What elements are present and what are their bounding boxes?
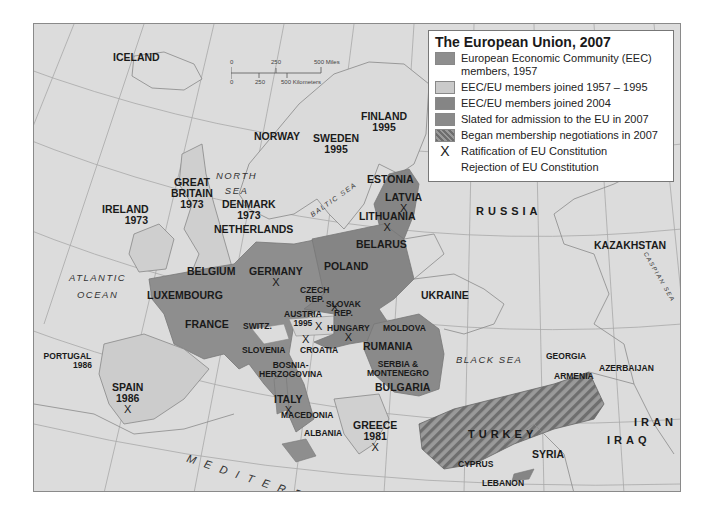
label-portugal: PORTUGAL1986 (43, 352, 92, 370)
label-sweden: SWEDEN1995 (313, 133, 359, 155)
scale-km-250: 250 (255, 79, 265, 85)
label-atlantic-ocean: ATLANTICOCEAN (69, 272, 126, 300)
legend: The European Union, 2007 European Econom… (428, 30, 674, 182)
legend-title: The European Union, 2007 (435, 34, 667, 50)
label-cyprus: CYPRUS (458, 460, 493, 469)
label-north-sea-line2: SEA (216, 185, 257, 196)
label-germany: GERMANYX (249, 266, 303, 288)
x-mark-icon: X (435, 145, 455, 158)
label-serbia-line2: MONTENEGRO (367, 369, 429, 378)
label-croatia: CROATIA (300, 346, 338, 355)
swatch-hatched-negotiations (435, 129, 455, 142)
label-kazakhstan: KAZAKHSTAN (594, 240, 666, 251)
label-black-sea: BLACK SEA (456, 354, 522, 365)
label-ireland-year: 1973 (124, 215, 149, 226)
label-russia: RUSSIA (476, 206, 542, 217)
label-armenia: ARMENIA (554, 372, 594, 381)
label-atlantic-line1: ATLANTIC (69, 272, 126, 283)
label-czech-line2: REP. (300, 295, 329, 304)
ratification-x-croatia-area: X (302, 333, 309, 345)
label-finland-year: 1995 (361, 122, 407, 133)
label-finland: FINLAND1995 (361, 111, 407, 133)
label-serbia-montenegro: SERBIA &MONTENEGRO (367, 360, 429, 378)
label-norway: NORWAY (254, 131, 300, 142)
legend-label-negotiations-2007: Began membership negotiations in 2007 (461, 129, 658, 142)
label-sweden-year: 1995 (313, 144, 359, 155)
label-belgium: BELGIUM (187, 266, 235, 277)
swatch-eec-1957 (435, 52, 455, 65)
ireland-shape (129, 224, 174, 272)
legend-item-negotiations-2007: Began membership negotiations in 2007 (435, 129, 667, 142)
legend-item-joined-2004: EEC/EU members joined 2004 (435, 97, 667, 110)
ratification-x-spain: X (112, 404, 143, 415)
swatch-joined-2004 (435, 97, 455, 110)
label-iraq: IRAQ (607, 435, 651, 446)
label-lithuania: LITHUANIAX (359, 211, 416, 233)
legend-item-eec-1957: European Economic Community (EEC) member… (435, 52, 667, 78)
scale-bar: 0 250 500 Miles 0 250 500 Kilometers (231, 59, 361, 89)
swatch-slated-2007 (435, 113, 455, 126)
legend-item-rejection: Rejection of EU Constitution (435, 161, 667, 174)
turkey-shape (419, 372, 604, 469)
label-netherlands: NETHERLANDS (214, 224, 293, 235)
label-gb-year: 1973 (171, 199, 213, 210)
label-turkey: TURKEY (468, 429, 537, 440)
legend-label-slated-2007: Slated for admission to the EU in 2007 (461, 113, 649, 126)
ratification-x-lithuania: X (359, 222, 416, 233)
label-north-sea-line1: NORTH (216, 170, 257, 181)
label-denmark-year: 1973 (222, 210, 276, 221)
label-luxembourg: LUXEMBOURG (147, 290, 223, 301)
label-estonia: ESTONIA (367, 174, 413, 185)
legend-item-joined-1957-1995: EEC/EU members joined 1957 – 1995 (435, 81, 667, 94)
legend-item-slated-2007: Slated for admission to the EU in 2007 (435, 113, 667, 126)
legend-label-joined-2004: EEC/EU members joined 2004 (461, 97, 611, 110)
label-poland: POLAND (324, 261, 368, 272)
label-ireland: IRELAND1973 (102, 204, 149, 226)
legend-label-joined-1957-1995: EEC/EU members joined 1957 – 1995 (461, 81, 648, 94)
legend-label-ratification: Ratification of EU Constitution (461, 145, 607, 158)
scale-miles-250: 250 (271, 59, 281, 65)
label-bosnia-line2: HERZOGOVINA (259, 370, 322, 379)
label-bulgaria: BULGARIA (375, 382, 430, 393)
legend-label-rejection: Rejection of EU Constitution (461, 161, 599, 174)
label-ukraine: UKRAINE (421, 290, 469, 301)
sicily-shape (282, 439, 316, 462)
label-great-britain: GREATBRITAIN1973 (171, 177, 213, 210)
label-iran: IRAN (634, 417, 677, 428)
label-syria: SYRIA (532, 449, 564, 460)
label-denmark: DENMARK1973 (222, 199, 276, 221)
label-bosnia: BOSNIA-HERZOGOVINA (259, 361, 322, 379)
label-north-sea: NORTHSEA (216, 170, 257, 196)
swatch-joined-1957-1995 (435, 81, 455, 94)
legend-item-ratification: X Ratification of EU Constitution (435, 145, 667, 158)
label-moldova: MOLDOVA (383, 324, 426, 333)
label-spain: SPAIN1986X (112, 382, 143, 415)
label-belarus: BELARUS (356, 239, 407, 250)
label-atlantic-line2: OCEAN (69, 289, 126, 300)
label-rumania: RUMANIA (363, 341, 413, 352)
label-georgia: GEORGIA (546, 352, 586, 361)
label-iceland: ICELAND (113, 52, 160, 63)
label-slovenia: SLOVENIA (242, 346, 285, 355)
label-switzerland: SWITZ. (243, 322, 272, 331)
label-greece: GREECE1981X (353, 420, 397, 453)
legend-label-eec-1957: European Economic Community (EEC) member… (461, 52, 667, 78)
label-macedonia: MACEDONIA (281, 411, 333, 420)
scale-km-500: 500 Kilometers (281, 79, 321, 85)
label-lebanon: LEBANON (482, 479, 524, 488)
scale-km-0: 0 (230, 79, 233, 85)
ratification-x-slovak: X (331, 301, 338, 313)
scale-miles-500: 500 Miles (314, 59, 340, 65)
label-azerbaijan: AZERBAIJAN (599, 364, 654, 373)
label-albania: ALBANIA (304, 429, 342, 438)
label-france: FRANCE (185, 319, 229, 330)
scale-miles-0: 0 (230, 59, 233, 65)
label-portugal-year: 1986 (73, 361, 92, 370)
ratification-x-germany: X (249, 277, 303, 288)
label-czech-rep: CZECHREP. (300, 286, 329, 304)
ratification-x-austria: X (315, 320, 322, 332)
ratification-x-greece: X (353, 442, 397, 453)
